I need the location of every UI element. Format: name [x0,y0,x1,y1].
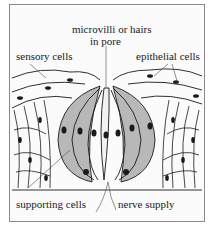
label-in-pore: in pore [90,35,121,47]
label-sensory-cells: sensory cells [16,50,73,62]
label-supporting-cells: supporting cells [16,198,86,210]
label-microvilli: microvilli or hairs [72,23,151,35]
label-nerve-supply: nerve supply [118,198,175,210]
label-epithelial-cells: epithelial cells [136,50,200,62]
